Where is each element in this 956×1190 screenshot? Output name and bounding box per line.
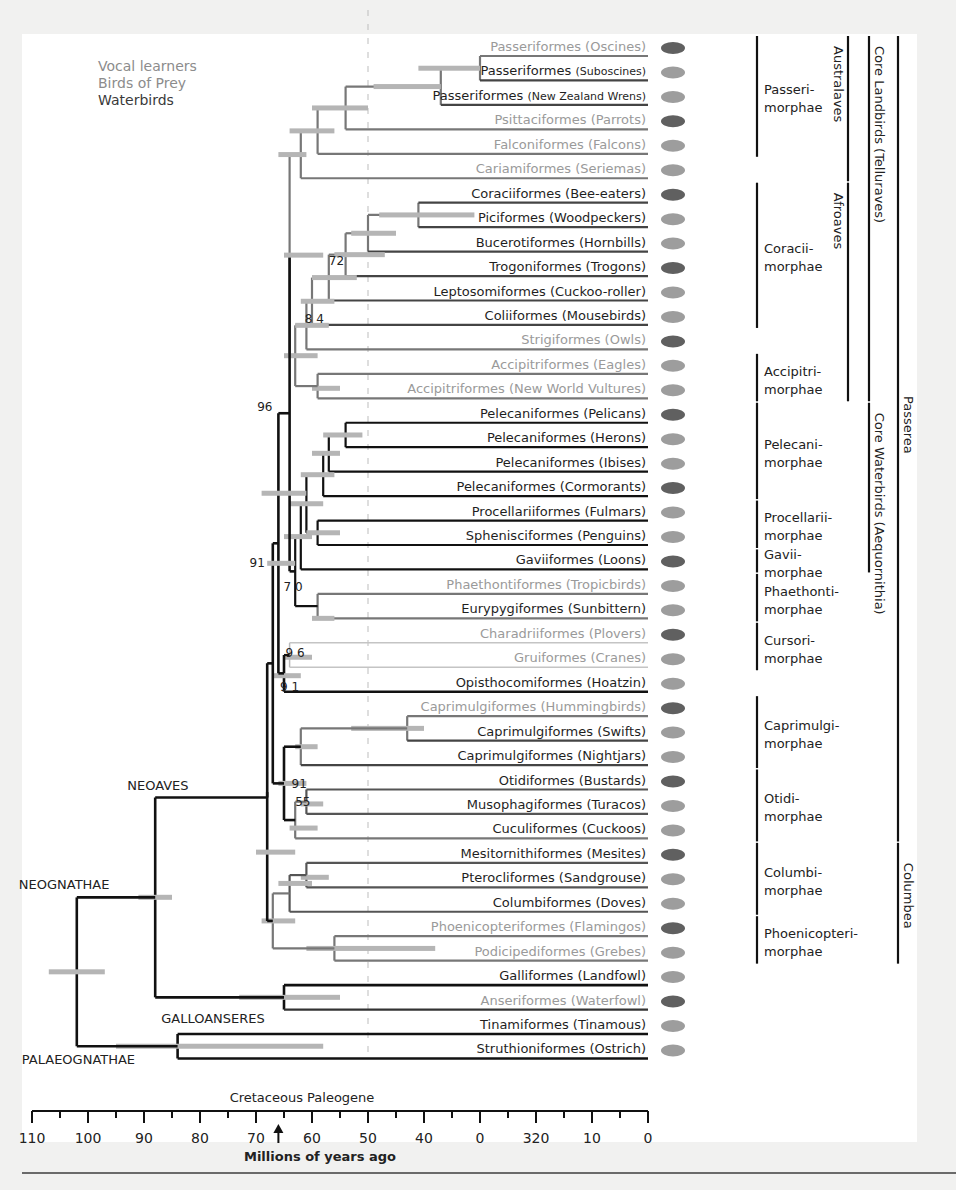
group-label: Columbi-	[764, 865, 822, 880]
support-value: 9 6	[286, 646, 305, 660]
bird-silhouette-icon	[661, 66, 685, 78]
confidence-interval-bar	[262, 491, 307, 496]
group-label: Caprimulgi-	[764, 718, 840, 733]
bird-silhouette-icon	[661, 335, 685, 347]
leaf-label: Pelecaniformes (Herons)	[487, 430, 646, 445]
group-label: Cursori-	[764, 633, 815, 648]
support-value: 9 1	[280, 680, 299, 694]
axis-tick-label: 320	[523, 1130, 550, 1146]
group-label: morphae	[764, 944, 822, 959]
bird-silhouette-icon	[661, 384, 685, 396]
leaf-label: Caprimulgiformes (Swifts)	[477, 724, 646, 739]
bird-silhouette-icon	[661, 91, 685, 103]
confidence-interval-bar	[312, 105, 368, 110]
axis-tick-label: 90	[135, 1130, 153, 1146]
bird-silhouette-icon	[661, 311, 685, 323]
axis-tick-label: 70	[247, 1130, 265, 1146]
super-group-label: Australaves	[831, 46, 846, 123]
leaf-label: Falconiformes (Falcons)	[494, 137, 646, 152]
leaf-label: Pterocliformes (Sandgrouse)	[461, 870, 646, 885]
leaf-label: Psittaciformes (Parrots)	[494, 112, 646, 127]
super-group-label: Core Waterbirds (Aequornithia)	[872, 413, 887, 615]
group-label: morphae	[764, 736, 822, 751]
bird-silhouette-icon	[661, 555, 685, 567]
leaf-label: Eurypygiformes (Sunbittern)	[461, 601, 646, 616]
support-value: 55	[295, 795, 310, 809]
axis-tick-label: 10	[583, 1130, 601, 1146]
leaf-label: Opisthocomiformes (Hoatzin)	[456, 675, 646, 690]
bird-silhouette-icon	[661, 140, 685, 152]
group-label: Otidi-	[764, 791, 800, 806]
bird-silhouette-icon	[661, 164, 685, 176]
bird-silhouette-icon	[661, 409, 685, 421]
group-label: morphae	[764, 100, 822, 115]
confidence-interval-bar	[284, 253, 323, 258]
leaf-label: Trogoniformes (Trogons)	[488, 259, 646, 274]
confidence-interval-bar	[374, 84, 441, 89]
bird-silhouette-icon	[661, 629, 685, 641]
bird-silhouette-icon	[661, 531, 685, 543]
leaf-label: Otidiformes (Bustards)	[499, 773, 646, 788]
axis-tick-label: 100	[75, 1130, 102, 1146]
group-label: morphae	[764, 565, 822, 580]
group-label: Pelecani-	[764, 437, 823, 452]
axis-tick-label: 110	[19, 1130, 46, 1146]
bird-silhouette-icon	[661, 727, 685, 739]
bird-silhouette-icon	[661, 458, 685, 470]
confidence-interval-bar	[351, 231, 396, 236]
leaf-label: Phaethontiformes (Tropicbirds)	[446, 577, 646, 592]
confidence-interval-bar	[278, 152, 306, 157]
bird-silhouette-icon	[661, 482, 685, 494]
bird-silhouette-icon	[661, 898, 685, 910]
clade-label-palaeognathae: PALAEOGNATHAE	[22, 1052, 135, 1067]
group-label: morphae	[764, 883, 822, 898]
bird-silhouette-icon	[661, 213, 685, 225]
leaf-label: Charadriiformes (Plovers)	[480, 626, 646, 641]
leaf-label: Accipitriformes (New World Vultures)	[407, 381, 646, 396]
leaf-label: Anseriformes (Waterfowl)	[481, 993, 646, 1008]
confidence-interval-bar	[290, 501, 324, 506]
bird-silhouette-icon	[661, 360, 685, 372]
leaf-label: Strigiformes (Owls)	[521, 332, 646, 347]
leaf-label: Passeriformes (Suboscines)	[481, 63, 647, 78]
arrow-up-icon	[273, 1124, 283, 1133]
leaf-label: Caprimulgiformes (Hummingbirds)	[421, 699, 646, 714]
super-group-label: Passerea	[901, 396, 916, 454]
group-label: morphae	[764, 651, 822, 666]
bird-silhouette-icon	[661, 1020, 685, 1032]
leaf-label: Mesitornithiformes (Mesites)	[461, 846, 646, 861]
confidence-interval-bar	[278, 881, 312, 886]
bird-silhouette-icon	[661, 873, 685, 885]
support-value: 96	[257, 400, 272, 414]
leaf-label: Cariamiformes (Seriemas)	[476, 161, 646, 176]
bird-silhouette-icon	[661, 580, 685, 592]
bird-silhouette-icon	[661, 947, 685, 959]
confidence-interval-bar	[256, 850, 295, 855]
bird-silhouette-icon	[661, 189, 685, 201]
bird-silhouette-icon	[661, 433, 685, 445]
x-axis-label: Millions of years ago	[244, 1149, 396, 1164]
support-value: 91	[292, 777, 307, 791]
bird-silhouette-icon	[661, 996, 685, 1008]
leaf-label: Musophagiformes (Turacos)	[467, 797, 646, 812]
confidence-interval-bar	[267, 561, 295, 566]
group-label: Passeri-	[764, 82, 815, 97]
leaf-label: Tinamiformes (Tinamous)	[479, 1017, 646, 1032]
bird-silhouette-icon	[661, 42, 685, 54]
bird-silhouette-icon	[661, 678, 685, 690]
support-value: 72	[329, 254, 344, 268]
confidence-interval-bar	[49, 969, 105, 974]
group-label: Coracii-	[764, 241, 814, 256]
leaf-label: Cuculiformes (Cuckoos)	[493, 821, 647, 836]
bird-silhouette-icon	[661, 849, 685, 861]
leaf-label: Pelecaniformes (Cormorants)	[457, 479, 647, 494]
leaf-label: Coraciiformes (Bee-eaters)	[471, 186, 646, 201]
group-label: Phaethonti-	[764, 584, 839, 599]
bird-silhouette-icon	[661, 604, 685, 616]
leaf-label: Accipitriformes (Eagles)	[491, 357, 646, 372]
group-label: Gavii-	[764, 547, 802, 562]
leaf-label: Passeriformes (New Zealand Wrens)	[433, 88, 646, 103]
leaf-label: Bucerotiformes (Hornbills)	[476, 235, 646, 250]
leaf-label: Gruiformes (Cranes)	[514, 650, 646, 665]
leaf-label: Sphenisciformes (Penguins)	[466, 528, 646, 543]
